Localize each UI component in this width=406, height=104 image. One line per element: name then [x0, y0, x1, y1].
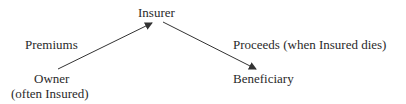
owner-note: (often Insured) [11, 86, 89, 101]
proceeds-label: Proceeds (when Insured dies) [233, 37, 386, 52]
premiums-label: Premiums [25, 37, 78, 52]
insurer-node: Insurer [138, 5, 175, 20]
beneficiary-node: Beneficiary [233, 71, 294, 86]
owner-node: Owner [34, 71, 69, 86]
